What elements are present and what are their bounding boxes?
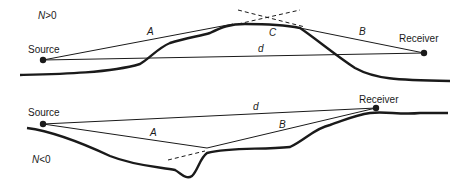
panel-top: N>0 Source Receiver A B C d: [20, 10, 450, 81]
path-b-bottom: [207, 108, 376, 148]
extension-dashed: [168, 151, 205, 160]
source-point-bottom: [40, 121, 46, 127]
source-label-top: Source: [28, 44, 60, 55]
path-label-a-bottom: A: [149, 127, 157, 138]
receiver-point-bottom: [373, 105, 379, 111]
condition-label-top: N>0: [38, 10, 57, 21]
path-label-c-top: C: [269, 27, 277, 38]
path-d-top: [43, 53, 424, 60]
path-label-d-top: d: [258, 43, 264, 54]
path-a-top: [43, 24, 233, 60]
path-label-d-bottom: d: [253, 101, 259, 112]
source-point-top: [40, 57, 46, 63]
panel-bottom: N<0 Source Receiver A B d: [27, 94, 448, 177]
path-difference-diagram: N>0 Source Receiver A B C d N<0 Source R…: [0, 0, 470, 187]
condition-label-bottom: N<0: [32, 154, 51, 165]
path-d-bottom: [43, 108, 376, 124]
receiver-point-top: [421, 50, 427, 56]
receiver-label-top: Receiver: [399, 33, 439, 44]
source-label-bottom: Source: [28, 107, 60, 118]
receiver-label-bottom: Receiver: [359, 94, 399, 105]
path-label-a-top: A: [146, 26, 154, 37]
path-a-bottom: [43, 124, 207, 148]
path-label-b-bottom: B: [279, 119, 286, 130]
path-label-b-top: B: [359, 26, 366, 37]
